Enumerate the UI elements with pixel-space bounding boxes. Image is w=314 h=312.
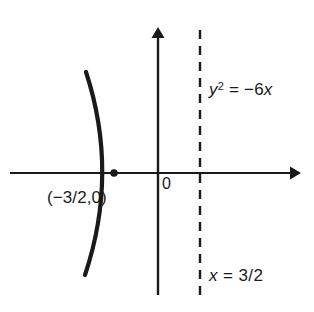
equation-label: y2 = −6x [209,81,273,98]
x-axis-arrowhead-icon [290,167,301,180]
origin-label: 0 [162,176,171,192]
y-axis [152,27,165,295]
directrix-rest: = 3/2 [218,266,263,285]
diagram-canvas [0,0,314,312]
equation-relation: = −6 [224,80,264,99]
parabola-diagram: y2 = −6x x = 3/2 (−3/2,0) 0 [0,0,314,312]
focus-point-dot [110,169,118,177]
equation-variable: x [264,80,273,99]
y-axis-arrowhead-icon [152,27,165,38]
directrix-variable: x [209,266,218,285]
x-axis [10,167,301,180]
equation-base: y [209,80,218,99]
directrix-label: x = 3/2 [209,267,263,284]
focus-point-label: (−3/2,0) [47,189,107,206]
